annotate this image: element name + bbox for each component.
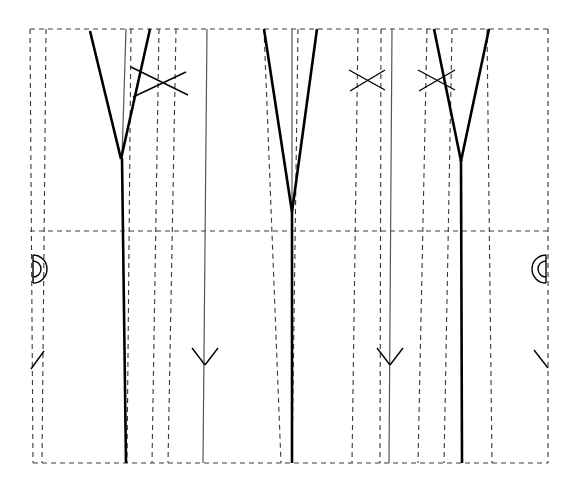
dart-panel3-left-leg [264,29,292,212]
notch-symbol-right-inner-arc [538,261,546,277]
dart1-right-leg-guide [152,29,159,463]
grain-arrow-panel2 [192,348,218,365]
edge-arrow-right [534,350,548,368]
grainline-panel2 [203,29,207,463]
closed-dart-mark-1-stroke-b [133,72,186,97]
pattern-drawing [0,0,574,487]
dart-panel4-right-leg [461,29,489,161]
closed-dart-mark-3 [418,70,455,91]
notch-symbol-left-inner-arc [33,261,41,277]
dart-panel4-left-leg [434,29,461,161]
dart-panel3 [264,29,317,212]
dart-group [90,29,489,212]
dart-cross-group [131,67,455,97]
grain-arrow-panel2-left-barb [192,348,205,365]
dart-panel1-left-leg [90,31,121,159]
center-left-guide [264,29,281,463]
closed-dart-mark-1 [131,67,188,97]
dart3-left-guide [352,29,358,463]
grain-arrow-panel4-left-barb [377,348,390,365]
right-edge-inner [487,29,492,463]
notch-symbol-right-outer-arc [532,255,546,283]
edge-arrow-group [31,350,548,369]
seamline-panel1 [122,158,126,463]
notch-symbol-left-outer-arc [33,255,47,283]
notch-group [33,255,546,283]
construction-frame-group [30,29,548,463]
grain-arrow-panel4-right-barb [390,348,403,365]
edge-arrow-left [31,351,44,369]
dart1-left-leg-guide [127,29,131,463]
dart-panel3-right-leg [292,29,317,212]
closed-dart-mark-2 [349,70,385,91]
dart-panel4 [434,29,489,161]
grain-arrow-panel2-right-barb [205,348,218,365]
left-edge-outer [30,29,33,463]
pattern-draft-canvas: Skirt Block Pattern Draft Flat sewing pa… [0,0,574,487]
grain-arrow-group [192,348,403,365]
seamline-panel4 [461,160,462,463]
notch-symbol-right [532,255,546,283]
grainline-panel4 [389,29,392,463]
left-edge-inner [42,29,46,463]
panel2-right-guide [168,29,176,463]
notch-symbol-left [33,255,47,283]
grainline-group [122,29,392,463]
construction-vertical-group [30,29,548,463]
dart4-left-guide [418,29,427,463]
dart3-right-guide [380,29,381,463]
